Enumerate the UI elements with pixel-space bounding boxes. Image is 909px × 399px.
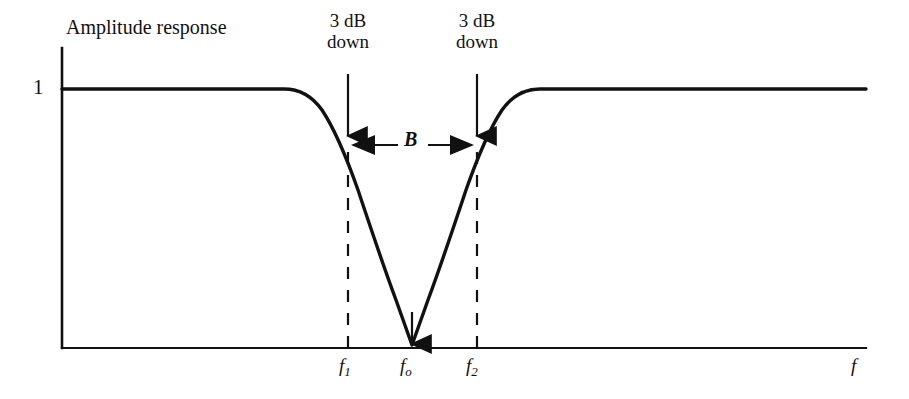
x-tick-label-f1: f1 — [339, 355, 351, 376]
x-tick-label-f2-subscript: 2 — [471, 364, 478, 379]
x-tick-label-f1-subscript: 1 — [344, 364, 351, 379]
x-axis-name-label: f — [851, 355, 856, 376]
notch-filter-figure: Amplitude response 1 3 dB down 3 dB down… — [0, 0, 909, 399]
three-db-down-left-label: 3 dB down — [303, 10, 393, 53]
y-axis-value-one: 1 — [33, 76, 44, 100]
three-db-down-right-line1: 3 dB — [432, 10, 522, 31]
three-db-down-right-label: 3 dB down — [432, 10, 522, 53]
x-tick-label-f2: f2 — [466, 355, 478, 376]
x-tick-label-f0: fo — [400, 355, 412, 376]
amplitude-response-curve — [62, 89, 866, 345]
three-db-down-left-line2: down — [303, 31, 393, 52]
three-db-down-left-line1: 3 dB — [303, 10, 393, 31]
plot-canvas — [0, 0, 909, 399]
amplitude-response-title: Amplitude response — [66, 16, 227, 38]
x-tick-label-f0-subscript: o — [405, 364, 412, 379]
bandwidth-label: B — [404, 128, 417, 150]
three-db-down-right-line2: down — [432, 31, 522, 52]
